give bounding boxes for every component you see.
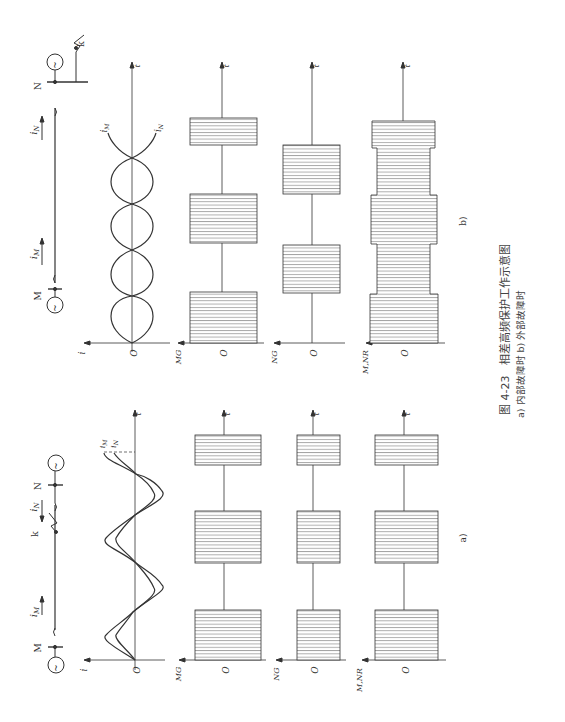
panel-label-a: a) [458,534,468,543]
origin-b2: O [309,349,319,357]
curve-label-in-a: iN [109,439,119,448]
origin-a0: O [132,666,142,674]
ylabel-mnr-a: M,NR [355,668,364,693]
ylabel-mg-a: MG [174,666,183,682]
origin-b1: O [219,349,229,357]
figure-4-23-diagram: M N k iM iN ~ ~ i t O iM iN [0,0,565,722]
source-symbol-n-a: ~ [51,462,61,470]
ylabel-ng-a: NG [272,667,281,682]
ylabel-i-b: i [77,351,87,354]
circuit-a [40,455,64,673]
xlabel-t-b3: t [403,64,412,68]
curve-label-im-b: iM [99,123,110,133]
hf-block [195,435,261,465]
current-m-label-a: iM [28,606,41,617]
fault-label-a: k [30,531,40,537]
plot-a-ng [276,410,346,662]
hf-block [297,610,340,660]
origin-a3: O [401,666,411,674]
current-m-label-b: iM [28,248,41,259]
panel-b: M N k iM iN ~ ~ i t O iM iN [28,35,468,375]
ylabel-ng-b: NG [270,350,279,365]
hf-block [297,435,340,465]
ylabel-i-a: i [79,668,89,671]
hf-block [375,435,438,465]
source-symbol-m-a: ~ [51,664,61,672]
curve-label-in-b: iN [153,123,164,132]
fault-bolt-a [49,513,57,532]
hf-block [283,145,340,194]
figure-number: 图 4-23 [499,376,512,415]
hf-block [190,194,257,243]
xlabel-t-b2: t [312,64,321,68]
xlabel-t-b0: t [133,64,142,68]
plot-b-mg [178,62,264,345]
curve-im-a [104,453,163,660]
hf-block [195,610,261,660]
curve-in-b [111,133,156,343]
circuit-b [40,35,88,313]
bus-m-label-b: M [33,291,43,300]
hf-block [190,118,257,145]
current-n-label-b: iN [28,124,41,134]
ylabel-mg-b: MG [174,349,183,365]
figure-subcaption: a) 内部故障时 b) 外部故障时 [515,290,526,418]
hf-block [190,292,257,343]
curve-im-b [108,133,153,343]
curve-in-a [114,453,155,660]
source-symbol-n-b: ~ [50,61,60,69]
source-symbol-m-b: ~ [50,304,60,312]
hf-block [375,511,438,563]
circuit-a-labels: M N k iM iN ~ ~ [28,462,61,672]
xlabel-t-b1: t [222,64,231,68]
origin-a2: O [310,666,320,674]
plot-a-current [84,410,165,670]
panel-a: M N k iM iN ~ ~ i t O iM iN [28,410,468,693]
figure-caption: 图 4-23 相差高频保护工作示意图 a) 内部故障时 b) 外部故障时 [498,244,526,418]
plot-b-mnr [366,62,445,345]
plot-b-ng [274,62,345,345]
bus-n-label-b: N [33,82,43,90]
bus-n-label-a: N [33,482,43,490]
figure-title: 相差高频保护工作示意图 [498,244,512,365]
hf-block [375,610,438,660]
origin-b0: O [129,349,139,357]
fault-label-b: k [76,41,86,47]
plot-b-current [84,62,170,352]
hf-block [297,511,340,563]
origin-a1: O [221,666,231,674]
current-n-label-a: iN [28,501,41,511]
plot-a-mg [179,410,266,662]
plot-a-mnr [362,410,446,662]
hf-block [195,511,261,563]
hf-block [283,245,340,293]
bus-m-label-a: M [33,643,43,652]
hf-block-continuous [370,121,438,343]
origin-b3: O [400,349,410,357]
panel-label-b: b) [458,216,468,225]
curve-label-im-a: iM [98,439,108,449]
ylabel-mnr-b: M,NR [361,350,370,375]
